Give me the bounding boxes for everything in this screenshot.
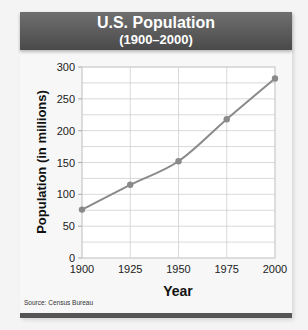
x-tick-label: 1925	[118, 263, 142, 275]
y-tick-label: 100	[57, 188, 75, 200]
source-note: Source: Census Bureau	[24, 299, 93, 306]
y-tick-label: 250	[57, 93, 75, 105]
bottom-bar	[20, 313, 292, 318]
y-tick-label: 200	[57, 125, 75, 137]
data-point	[224, 116, 230, 122]
data-point	[272, 75, 278, 81]
y-tick-label: 50	[63, 220, 75, 232]
x-axis-label: Year	[163, 283, 193, 299]
y-tick-label: 300	[57, 61, 75, 73]
y-tick-label: 150	[57, 157, 75, 169]
y-axis-ticks: 050100150200250300	[57, 61, 82, 264]
line-chart: 050100150200250300 19001925195019752000 …	[0, 0, 308, 330]
y-axis-label: Population (in millions)	[34, 90, 49, 234]
data-point	[175, 158, 181, 164]
x-axis-ticks: 19001925195019752000	[70, 263, 287, 275]
data-point	[79, 206, 85, 212]
x-tick-label: 2000	[263, 263, 287, 275]
x-tick-label: 1975	[215, 263, 239, 275]
x-tick-label: 1900	[70, 263, 94, 275]
x-tick-label: 1950	[166, 263, 190, 275]
data-point	[127, 182, 133, 188]
